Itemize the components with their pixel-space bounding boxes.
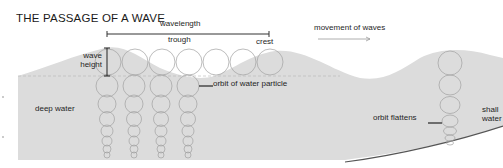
movement-arrow-icon xyxy=(318,37,370,41)
orbit-flattens-label: orbit flattens xyxy=(373,113,417,122)
shallow-water-label-1: shall xyxy=(482,105,498,114)
movement-label: movement of waves xyxy=(314,23,385,32)
wavelength-label: wavelength xyxy=(160,19,200,28)
crest-label: crest xyxy=(256,37,273,46)
wave-height-label-1: wave xyxy=(82,51,102,60)
orbit-label: orbit of water particle xyxy=(213,79,287,88)
diagram-title: THE PASSAGE OF A WAVE xyxy=(16,12,165,24)
wave-height-label-2: height xyxy=(76,60,102,69)
deep-water-label: deep water xyxy=(35,104,75,113)
trough-label: trough xyxy=(168,35,191,44)
wave-diagram: THE PASSAGE OF A WAVE wavelength trough … xyxy=(0,0,503,168)
shallow-water-label-2: water xyxy=(482,114,502,123)
